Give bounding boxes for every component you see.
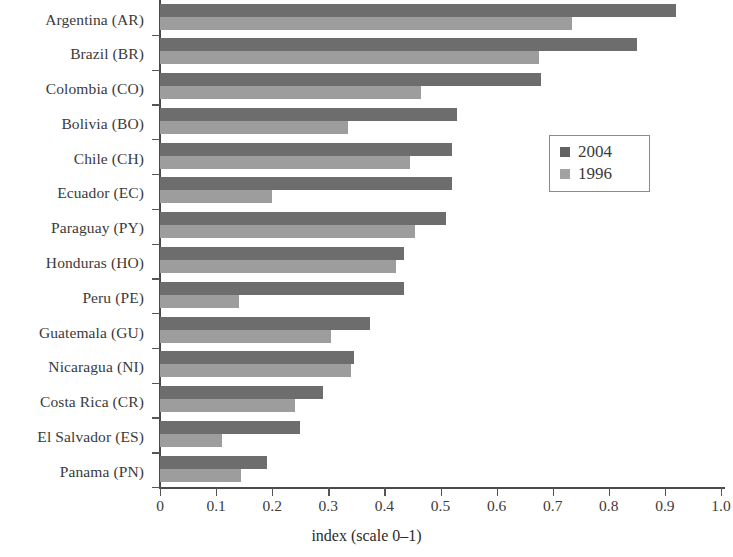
- category-label: Panama (PN): [60, 464, 144, 480]
- bar-2004: [160, 456, 267, 469]
- bar-2004: [160, 177, 452, 190]
- legend-label-1996: 1996: [578, 165, 612, 182]
- category-label: El Salvador (ES): [37, 429, 144, 445]
- y-axis-tick: [152, 174, 160, 175]
- bar-1996: [160, 121, 348, 134]
- x-axis-tick-label: 0.5: [431, 497, 450, 515]
- bar-1996: [160, 156, 410, 169]
- x-axis-tick-label: 0.4: [375, 497, 394, 515]
- bar-1996: [160, 295, 239, 308]
- bar-2004: [160, 386, 323, 399]
- category-label: Argentina (AR): [45, 12, 144, 28]
- bar-2004: [160, 38, 637, 51]
- bar-1996: [160, 469, 241, 482]
- legend-item-2004: 2004: [560, 143, 612, 160]
- x-axis-tick: [160, 487, 161, 496]
- bar-1996: [160, 260, 396, 273]
- x-axis-tick: [384, 487, 385, 496]
- x-axis-tick: [553, 487, 554, 496]
- category-label: Bolivia (BO): [61, 116, 144, 132]
- bar-1996: [160, 86, 421, 99]
- y-axis-tick: [152, 244, 160, 245]
- y-axis-tick: [152, 104, 160, 105]
- bar-2004: [160, 143, 452, 156]
- bar-2004: [160, 73, 541, 86]
- category-label: Brazil (BR): [70, 46, 144, 62]
- x-axis-tick-label: 0.7: [543, 497, 562, 515]
- y-axis-tick: [152, 487, 160, 488]
- category-label: Paraguay (PY): [51, 220, 144, 236]
- x-axis-tick: [216, 487, 217, 496]
- y-axis-tick: [152, 209, 160, 210]
- bar-1996: [160, 434, 222, 447]
- legend-label-2004: 2004: [578, 143, 612, 160]
- y-axis-tick: [152, 35, 160, 36]
- x-axis-tick-label: 0.8: [599, 497, 618, 515]
- bar-1996: [160, 364, 351, 377]
- category-label: Guatemala (GU): [39, 325, 144, 341]
- category-label: Costa Rica (CR): [40, 394, 144, 410]
- x-axis-tick: [609, 487, 610, 496]
- y-axis-tick: [152, 383, 160, 384]
- bar-2004: [160, 4, 676, 17]
- legend-swatch-1996-icon: [560, 169, 570, 179]
- category-label: Colombia (CO): [46, 81, 144, 97]
- x-axis-tick: [441, 487, 442, 496]
- x-axis-line: [159, 487, 725, 489]
- y-axis-tick: [152, 313, 160, 314]
- x-axis-tick-label: 0: [156, 497, 164, 515]
- bar-2004: [160, 247, 404, 260]
- bar-1996: [160, 190, 272, 203]
- category-label: Ecuador (EC): [57, 185, 144, 201]
- x-axis-tick-label: 1.0: [711, 497, 730, 515]
- legend-swatch-2004-icon: [560, 147, 570, 157]
- y-axis-tick: [152, 348, 160, 349]
- bar-2004: [160, 212, 446, 225]
- category-axis-labels: Argentina (AR)Brazil (BR)Colombia (CO)Bo…: [0, 0, 152, 487]
- x-axis-tick: [272, 487, 273, 496]
- x-axis-tick-label: 0.1: [206, 497, 225, 515]
- y-axis-tick: [152, 70, 160, 71]
- legend-item-1996: 1996: [560, 165, 612, 182]
- bar-chart: Argentina (AR)Brazil (BR)Colombia (CO)Bo…: [0, 0, 733, 557]
- bar-1996: [160, 399, 295, 412]
- category-label: Chile (CH): [74, 151, 144, 167]
- x-axis-tick: [328, 487, 329, 496]
- y-axis-tick: [152, 452, 160, 453]
- bar-2004: [160, 421, 300, 434]
- x-axis-tick-label: 0.9: [655, 497, 674, 515]
- bar-2004: [160, 351, 354, 364]
- bar-2004: [160, 317, 370, 330]
- bar-1996: [160, 17, 572, 30]
- y-axis-tick: [152, 417, 160, 418]
- y-axis-tick: [152, 139, 160, 140]
- x-axis-title: index (scale 0–1): [0, 527, 733, 545]
- bar-2004: [160, 282, 404, 295]
- x-axis-tick: [721, 487, 722, 496]
- legend: 2004 1996: [549, 135, 650, 192]
- x-axis-tick-label: 0.2: [263, 497, 282, 515]
- x-axis-tick-label: 0.3: [319, 497, 338, 515]
- bar-2004: [160, 108, 457, 121]
- x-axis-tick: [665, 487, 666, 496]
- bar-1996: [160, 51, 539, 64]
- category-label: Nicaragua (NI): [48, 359, 144, 375]
- category-label: Peru (PE): [82, 290, 144, 306]
- category-label: Honduras (HO): [46, 255, 144, 271]
- x-axis-tick: [497, 487, 498, 496]
- bar-1996: [160, 330, 331, 343]
- x-axis-tick-label: 0.6: [487, 497, 506, 515]
- plot-area: 00.10.20.30.40.50.60.70.80.91.0: [160, 0, 733, 487]
- y-axis-tick: [152, 278, 160, 279]
- bar-1996: [160, 225, 415, 238]
